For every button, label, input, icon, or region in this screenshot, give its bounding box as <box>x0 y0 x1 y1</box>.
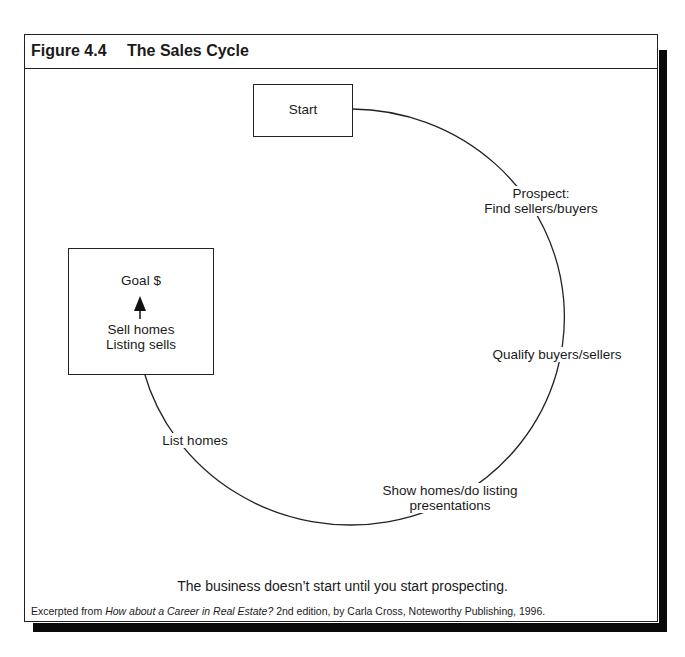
credit-prefix: Excerpted from <box>31 605 105 617</box>
step-qualify: Qualify buyers/sellers <box>482 347 632 362</box>
credit-book-title: How about a Career in Real Estate? <box>105 605 273 617</box>
start-label: Start <box>254 102 352 117</box>
goal-line1: Sell homes <box>69 322 213 337</box>
figure-caption: The business doesn’t start until you sta… <box>0 578 685 594</box>
step-prospect-line2: Find sellers/buyers <box>466 201 616 216</box>
goal-box: Goal $ Sell homes Listing sells <box>68 248 214 375</box>
step-show-line2: presentations <box>370 498 530 513</box>
step-qualify-line1: Qualify buyers/sellers <box>482 347 632 362</box>
step-show-line1: Show homes/do listing <box>370 483 530 498</box>
start-box: Start <box>253 84 353 137</box>
step-list-homes: List homes <box>155 433 235 448</box>
step-list-line1: List homes <box>155 433 235 448</box>
arrow-up-icon <box>69 249 215 376</box>
step-show-homes: Show homes/do listing presentations <box>370 483 530 513</box>
credit-suffix: 2nd edition, by Carla Cross, Noteworthy … <box>273 605 545 617</box>
step-prospect-line1: Prospect: <box>466 186 616 201</box>
goal-line2: Listing sells <box>69 337 213 352</box>
step-prospect: Prospect: Find sellers/buyers <box>466 186 616 216</box>
source-credit: Excerpted from How about a Career in Rea… <box>31 605 545 617</box>
